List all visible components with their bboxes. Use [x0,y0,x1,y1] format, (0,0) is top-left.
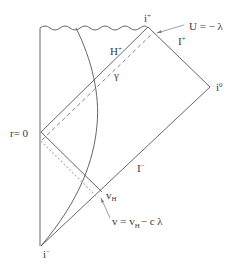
u-lambda-dashed-line [42,32,154,140]
label-i-plus: i+ [144,12,151,24]
v-arrowhead-icon [101,198,104,203]
v-h-null-line [41,132,102,192]
label-v-h: vH [106,189,117,203]
timelike-surface-curve [41,28,98,246]
singularity-wavy-line [40,26,148,30]
label-scri-plus: I+ [178,35,186,47]
label-scri-minus: I− [137,162,145,174]
label-i-zero: i0 [216,81,223,93]
label-horizon: H+ [110,45,122,57]
label-i-minus: i− [43,248,50,260]
penrose-diagram: i+ U = − λ I+ H+ γ i0 r= 0 I− vH v = vH−… [0,0,241,269]
label-gamma: γ [113,69,119,81]
label-u-equation: U = − λ [189,20,224,32]
v-shifted-dotted-line [41,141,98,198]
label-v-equation: v = vH− c λ [112,215,163,230]
u-arrowhead-icon [157,30,162,33]
label-r-zero: r= 0 [10,127,29,139]
